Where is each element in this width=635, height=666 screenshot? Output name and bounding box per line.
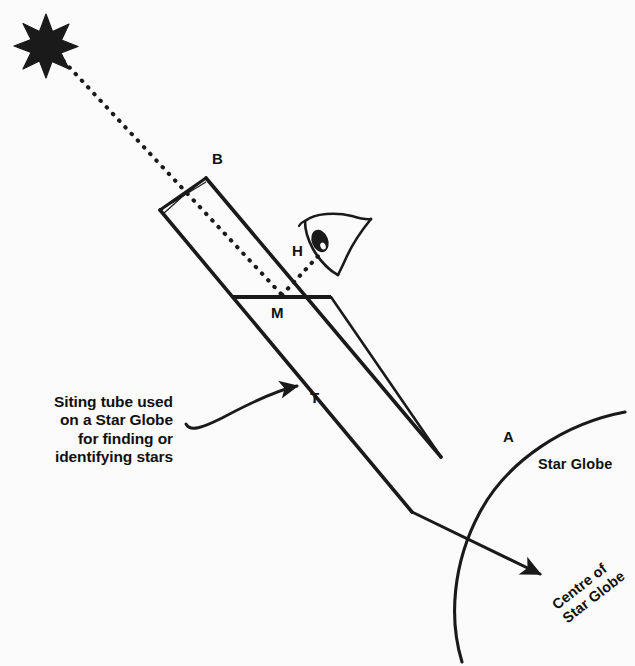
label-point-m: M — [271, 304, 284, 322]
star-globe-siting-tube-diagram: B H M T A Star Globe Centre ofStar Globe… — [0, 0, 635, 666]
caption-line-4: identifying stars — [55, 448, 173, 465]
diagram-canvas — [0, 0, 635, 666]
light-ray-incoming — [57, 54, 282, 295]
eye-iris — [308, 227, 332, 254]
caption-line-1: Siting tube used — [54, 393, 173, 410]
label-star-globe: Star Globe — [538, 456, 612, 473]
caption-line-2: on a Star Globe — [60, 411, 173, 428]
diagram-caption: Siting tube usedon a Star Globefor findi… — [20, 393, 173, 466]
star-icon — [14, 14, 78, 78]
label-point-t: T — [310, 389, 319, 407]
caption-pointer-arrow — [186, 386, 297, 428]
label-point-h: H — [292, 242, 303, 260]
eye-icon — [299, 214, 371, 275]
label-point-b: B — [212, 150, 223, 168]
caption-line-3: for finding or — [78, 430, 173, 447]
tube-upper-edge — [206, 178, 441, 457]
label-point-a: A — [503, 428, 514, 446]
star-globe-arc — [455, 412, 625, 662]
